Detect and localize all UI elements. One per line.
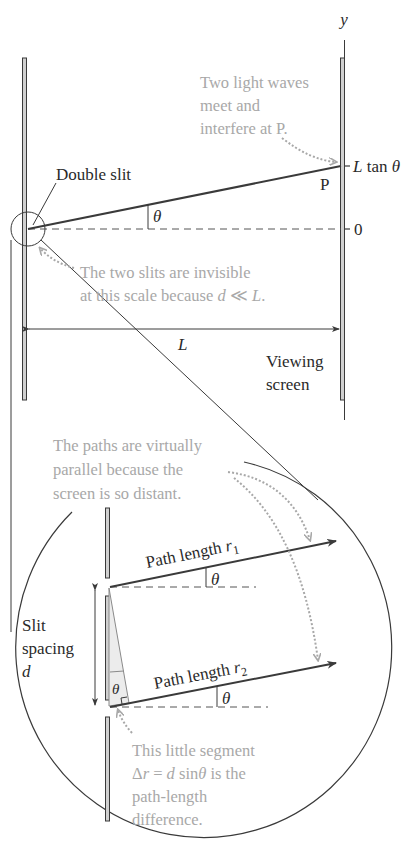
lower-barrier bbox=[106, 717, 110, 821]
svg-text:at this scale because d ≪ L.: at this scale because d ≪ L. bbox=[80, 286, 265, 305]
svg-text:meet and: meet and bbox=[200, 96, 261, 115]
svg-text:This little segment: This little segment bbox=[132, 741, 255, 760]
viewing-screen bbox=[341, 58, 345, 400]
svg-text:difference.: difference. bbox=[132, 810, 203, 829]
svg-text:Δr = d sinθ is the: Δr = d sinθ is the bbox=[132, 764, 246, 783]
svg-text:d: d bbox=[22, 662, 31, 681]
note-paths-parallel: The paths are virtually parallel because… bbox=[53, 436, 203, 503]
theta-r2-label: θ bbox=[222, 689, 230, 708]
distance-l-label: L bbox=[177, 335, 187, 354]
svg-text:Slit: Slit bbox=[22, 616, 46, 635]
tick-zero: 0 bbox=[354, 220, 363, 239]
double-slit-diagram: y Double slit θ P L tan θ 0 L Viewing sc… bbox=[0, 0, 417, 861]
magnified-view: The paths are virtually parallel because… bbox=[16, 436, 392, 838]
overview-diagram: y Double slit θ P L tan θ 0 L Viewing sc… bbox=[11, 10, 400, 632]
viewing-screen-label-1: Viewing bbox=[266, 352, 324, 371]
path-length-r1-label: Path length r1 bbox=[144, 535, 240, 575]
svg-text:parallel because the: parallel because the bbox=[53, 460, 183, 479]
slit-barrier bbox=[23, 58, 27, 400]
svg-text:Two light waves: Two light waves bbox=[200, 73, 309, 92]
svg-text:interfere at P.: interfere at P. bbox=[200, 119, 288, 138]
theta-label: θ bbox=[153, 207, 161, 226]
slit-spacing-label: Slit spacing d bbox=[22, 616, 74, 681]
note-waves-interfere: Two light waves meet and interfere at P. bbox=[200, 73, 309, 138]
svg-text:The two slits are invisible: The two slits are invisible bbox=[80, 263, 250, 282]
point-p-label: P bbox=[320, 175, 329, 194]
note-slits-invisible: The two slits are invisible at this scal… bbox=[80, 263, 265, 305]
theta-r1-label: θ bbox=[211, 570, 219, 589]
svg-text:path-length: path-length bbox=[132, 787, 208, 806]
upper-barrier bbox=[106, 508, 110, 578]
theta-triangle-label: θ bbox=[112, 681, 120, 697]
double-slit-label: Double slit bbox=[56, 165, 131, 184]
y-axis-label: y bbox=[338, 10, 348, 29]
svg-text:spacing: spacing bbox=[22, 639, 74, 658]
svg-text:screen is so distant.: screen is so distant. bbox=[53, 484, 181, 503]
viewing-screen-label-2: screen bbox=[266, 375, 310, 394]
tick-l-tan-theta: L tan θ bbox=[352, 157, 400, 176]
svg-text:The paths are virtually: The paths are virtually bbox=[53, 436, 203, 455]
note-path-length-difference: This little segment Δr = d sinθ is the p… bbox=[132, 741, 255, 829]
